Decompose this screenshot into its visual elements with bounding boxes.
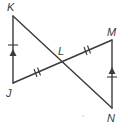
point-label-j: J [5,87,12,99]
point-label-m: M [107,26,117,38]
point-label-k: K [7,1,15,13]
parallel-arrow-icon-mn [109,67,116,74]
point-label-n: N [107,112,115,124]
parallel-arrow-icon-kj [10,49,17,56]
geometry-diagram: K J L M N [0,0,128,135]
scan-artifact-dot [82,115,83,116]
point-label-l: L [58,45,64,57]
